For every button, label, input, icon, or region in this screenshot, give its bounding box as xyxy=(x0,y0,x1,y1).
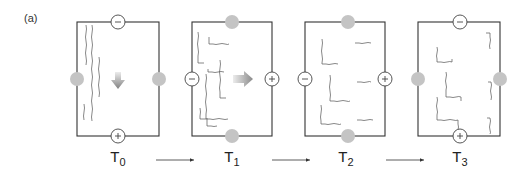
panel-t1 xyxy=(185,15,279,143)
neutral-terminal-icon xyxy=(225,129,239,143)
neutral-terminal-icon xyxy=(225,15,239,29)
neutral-terminal-icon xyxy=(152,72,166,86)
right-arrow-icon xyxy=(233,71,253,87)
neutral-terminal-icon xyxy=(411,72,425,86)
fibers xyxy=(84,25,100,121)
fibers xyxy=(198,32,230,127)
neutral-terminal-icon xyxy=(341,15,355,29)
panel-t0 xyxy=(70,15,166,143)
stage-label-t2: T2 xyxy=(326,148,366,168)
fibers xyxy=(437,33,492,134)
stage-label-t1: T1 xyxy=(212,148,252,168)
neutral-terminal-icon xyxy=(493,72,507,86)
stage-label-t3: T3 xyxy=(440,148,480,168)
neutral-terminal-icon xyxy=(70,72,84,86)
neutral-terminal-icon xyxy=(341,129,355,143)
panel-t2 xyxy=(298,15,392,143)
fibers xyxy=(321,39,374,125)
panel-t3 xyxy=(411,15,507,143)
stage-label-t0: T0 xyxy=(98,148,138,168)
cell-frame xyxy=(418,22,500,136)
down-arrow-icon xyxy=(111,72,125,89)
cell-frame xyxy=(305,22,385,136)
